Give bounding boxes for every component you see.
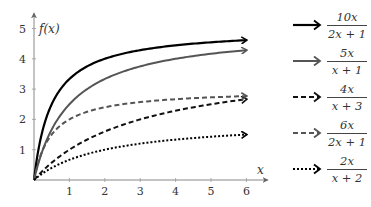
legend-line-icon <box>291 54 327 68</box>
x-tick-label: 4 <box>172 185 179 198</box>
x-tick-label: 6 <box>243 185 250 198</box>
y-tick-label: 2 <box>19 113 26 126</box>
legend-item: 5xx + 1 <box>289 46 371 82</box>
x-tick-label: 3 <box>137 185 144 198</box>
data-lines <box>34 40 246 180</box>
legend-formula: 10x2x + 1 <box>327 10 367 41</box>
y-tick-label: 1 <box>19 144 26 157</box>
legend-item: 6x2x + 1 <box>289 118 371 154</box>
legend: 10x2x + 15xx + 14xx + 36x2x + 12xx + 2 <box>289 10 371 190</box>
x-axis-label: x <box>257 163 264 177</box>
legend-line-icon <box>291 126 327 140</box>
legend-formula: 2xx + 2 <box>327 154 367 185</box>
legend-formula: 6x2x + 1 <box>327 118 367 149</box>
x-tick-label: 1 <box>66 185 73 198</box>
y-tick-label: 3 <box>19 83 26 96</box>
x-tick-label: 2 <box>101 185 108 198</box>
formula-denominator: 2x + 1 <box>327 25 367 41</box>
legend-formula: 4xx + 3 <box>327 82 367 113</box>
formula-numerator: 6x <box>327 118 367 133</box>
series-line <box>34 99 246 180</box>
legend-formula: 5xx + 1 <box>327 46 367 77</box>
series-line <box>34 40 246 180</box>
series-line <box>34 135 246 180</box>
formula-denominator: x + 2 <box>327 169 367 185</box>
legend-line-icon <box>291 18 327 32</box>
formula-denominator: 2x + 1 <box>327 133 367 149</box>
y-tick-label: 4 <box>19 53 26 66</box>
legend-line-icon <box>291 90 327 104</box>
formula-denominator: x + 3 <box>327 97 367 113</box>
legend-item: 2xx + 2 <box>289 154 371 190</box>
y-axis-label: f(x) <box>38 22 60 36</box>
formula-numerator: 10x <box>327 10 367 25</box>
formula-denominator: x + 1 <box>327 61 367 77</box>
y-tick-label: 5 <box>19 23 26 36</box>
formula-numerator: 2x <box>327 154 367 169</box>
formula-numerator: 4x <box>327 82 367 97</box>
legend-line-icon <box>291 162 327 176</box>
x-tick-label: 5 <box>208 185 215 198</box>
formula-numerator: 5x <box>327 46 367 61</box>
legend-item: 4xx + 3 <box>289 82 371 118</box>
legend-item: 10x2x + 1 <box>289 10 371 46</box>
